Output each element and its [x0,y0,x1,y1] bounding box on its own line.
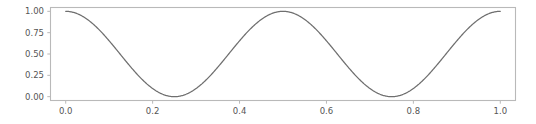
x-tick-label: 0.0 [59,106,73,116]
y-tick-label: 0.75 [25,28,44,38]
x-tick-label: 0.4 [233,106,247,116]
figure-canvas: 0.000.250.500.751.00 0.00.20.40.60.81.0 [0,0,536,124]
x-tick-label: 0.8 [407,106,421,116]
line-chart: 0.000.250.500.751.00 0.00.20.40.60.81.0 [0,0,536,124]
y-tick-label: 1.00 [25,6,44,16]
y-tick-label: 0.25 [25,70,44,80]
x-tick-label: 1.0 [494,106,508,116]
x-tick-label: 0.2 [146,106,160,116]
x-tick-label: 0.6 [320,106,334,116]
y-tick-label: 0.00 [25,92,44,102]
y-tick-label: 0.50 [25,49,44,59]
